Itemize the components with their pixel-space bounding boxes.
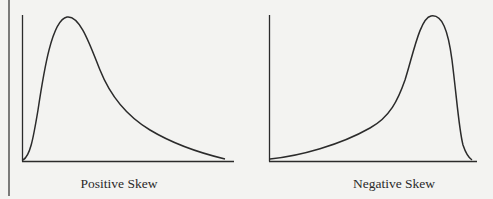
negative-skew-curve: [270, 16, 472, 160]
positive-skew-curve: [23, 17, 225, 160]
negative-skew-label: Negative Skew: [353, 176, 435, 192]
skewness-diagram: [0, 0, 493, 199]
positive-skew-label: Positive Skew: [81, 176, 158, 192]
negative-skew-panel: [269, 15, 477, 162]
positive-skew-panel: [22, 15, 234, 162]
